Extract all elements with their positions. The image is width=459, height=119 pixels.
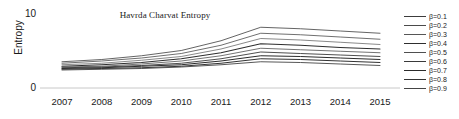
legend-line-swatch-icon [404, 43, 426, 44]
legend-item-label: β=0.7 [429, 67, 447, 75]
chart-title: Havrda Charvat Entropy [95, 10, 235, 20]
legend-item-label: β=0.1 [429, 13, 447, 21]
x-tick-label: 2013 [282, 96, 320, 107]
series-line [62, 52, 380, 68]
y-tick-label-10: 10 [12, 8, 36, 19]
legend-line-swatch-icon [404, 34, 426, 35]
legend-line-swatch-icon [404, 52, 426, 53]
legend-item[interactable]: β=0.6 [404, 57, 447, 66]
chart-legend: β=0.1β=0.2β=0.3β=0.4β=0.5β=0.6β=0.7β=0.8… [404, 12, 447, 93]
chart-figure: Havrda Charvat Entropy Entropy 10 0 2007… [0, 0, 459, 119]
legend-item[interactable]: β=0.9 [404, 84, 447, 93]
legend-line-swatch-icon [404, 79, 426, 80]
legend-line-swatch-icon [404, 16, 426, 17]
x-tick-label: 2012 [242, 96, 280, 107]
x-tick-label: 2007 [43, 96, 81, 107]
legend-item[interactable]: β=0.8 [404, 75, 447, 84]
legend-item-label: β=0.9 [429, 85, 447, 93]
legend-item[interactable]: β=0.7 [404, 66, 447, 75]
series-line [62, 27, 380, 62]
x-tick-label: 2015 [361, 96, 399, 107]
x-tick-label: 2011 [202, 96, 240, 107]
legend-line-swatch-icon [404, 70, 426, 71]
y-tick-label-0: 0 [12, 82, 36, 93]
legend-item[interactable]: β=0.2 [404, 21, 447, 30]
x-tick-label: 2009 [123, 96, 161, 107]
x-tick-label: 2014 [321, 96, 359, 107]
legend-item[interactable]: β=0.1 [404, 12, 447, 21]
legend-line-swatch-icon [404, 25, 426, 26]
legend-item[interactable]: β=0.5 [404, 48, 447, 57]
legend-item[interactable]: β=0.3 [404, 30, 447, 39]
x-tick-label: 2008 [83, 96, 121, 107]
series-lines-group [62, 27, 380, 70]
legend-item[interactable]: β=0.4 [404, 39, 447, 48]
x-tick-label: 2010 [162, 96, 200, 107]
legend-item-label: β=0.4 [429, 40, 447, 48]
legend-line-swatch-icon [404, 88, 426, 89]
legend-item-label: β=0.8 [429, 76, 447, 84]
legend-item-label: β=0.3 [429, 31, 447, 39]
legend-item-label: β=0.2 [429, 22, 447, 30]
legend-item-label: β=0.5 [429, 49, 447, 57]
legend-item-label: β=0.6 [429, 58, 447, 66]
legend-line-swatch-icon [404, 61, 426, 62]
